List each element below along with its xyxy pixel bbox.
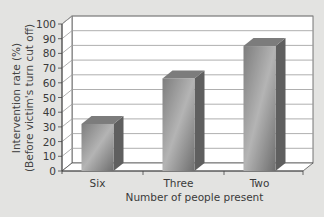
y-tick-label: 10 — [30, 150, 56, 162]
y-tick-label: 0 — [30, 165, 56, 177]
y-tick-label: 100 — [30, 18, 56, 30]
y-tick-label: 30 — [30, 121, 56, 133]
y-tick-label: 70 — [30, 62, 56, 74]
bar-chart: Intervention rate (%) (Before victim's t… — [0, 0, 324, 217]
bar-side-face — [276, 38, 286, 171]
y-tick-label: 90 — [30, 33, 56, 45]
bar-front-face — [244, 46, 276, 171]
bar-three — [163, 70, 205, 171]
bar-front-face — [82, 124, 114, 171]
y-tick-label: 50 — [30, 92, 56, 104]
y-tick-label: 60 — [30, 77, 56, 89]
y-tick-label: 80 — [30, 47, 56, 59]
y-tick-label: 40 — [30, 106, 56, 118]
x-tick-label: Six — [68, 177, 128, 189]
x-tick-label: Three — [149, 177, 209, 189]
bar-side-face — [195, 70, 205, 171]
bar-front-face — [163, 78, 195, 171]
x-tick-label: Two — [230, 177, 290, 189]
y-axis-title-line1: Intervention rate (%) — [10, 24, 23, 172]
bar-side-face — [114, 116, 124, 171]
bar-two — [244, 38, 286, 171]
bar-six — [82, 116, 124, 171]
x-axis-title: Number of people present — [72, 191, 317, 203]
y-tick-label: 20 — [30, 136, 56, 148]
